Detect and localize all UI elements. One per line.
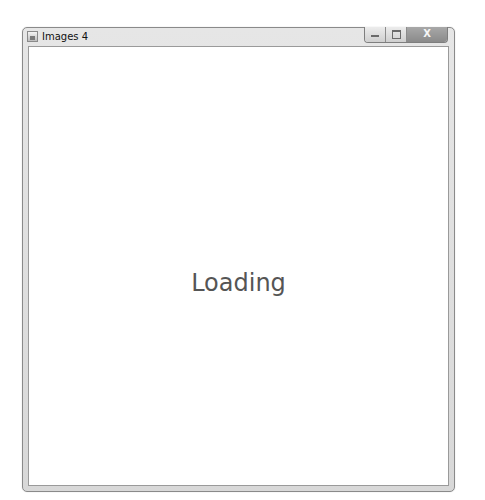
title-bar[interactable]: Images 4 X: [23, 28, 454, 46]
close-button[interactable]: X: [407, 27, 447, 42]
app-window: Images 4 X Loading: [22, 27, 455, 492]
loading-text: Loading: [29, 269, 448, 297]
window-controls: X: [364, 27, 448, 43]
window-title: Images 4: [42, 30, 88, 43]
content-area: Loading: [28, 46, 449, 486]
minimize-icon: [371, 35, 379, 37]
maximize-button[interactable]: [386, 27, 407, 42]
close-icon: X: [407, 27, 447, 41]
minimize-button[interactable]: [365, 27, 386, 42]
app-image-icon: [27, 31, 38, 42]
maximize-icon: [392, 30, 401, 39]
